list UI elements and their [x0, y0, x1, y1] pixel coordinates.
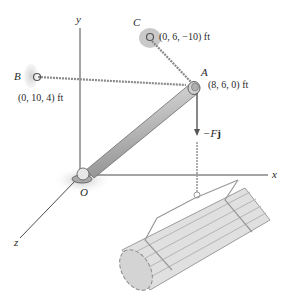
- statics-diagram: y x z −Fj B (0, 10,: [0, 0, 291, 304]
- log-bundle-load: [113, 180, 270, 296]
- force-arrowhead-icon: [194, 129, 200, 136]
- boom: [86, 82, 200, 179]
- cable-ac: [152, 41, 191, 82]
- z-axis-label: z: [13, 236, 19, 248]
- cable-ab: [38, 77, 186, 85]
- support-c-plate: [139, 28, 161, 48]
- support-b-plate: [24, 64, 38, 88]
- z-axis: [20, 180, 76, 238]
- x-axis-label: x: [271, 168, 277, 180]
- point-c-label: C: [133, 16, 141, 28]
- point-a-label: A: [200, 66, 208, 78]
- point-c-coords: (0, 6, −10) ft: [159, 31, 210, 43]
- y-axis-label: y: [75, 13, 81, 25]
- force-label: −Fj: [203, 127, 221, 139]
- point-a-coords: (8, 6, 0) ft: [208, 79, 248, 91]
- origin-label: O: [80, 186, 88, 198]
- point-b-label: B: [14, 70, 21, 82]
- point-b-coords: (0, 10, 4) ft: [18, 92, 63, 104]
